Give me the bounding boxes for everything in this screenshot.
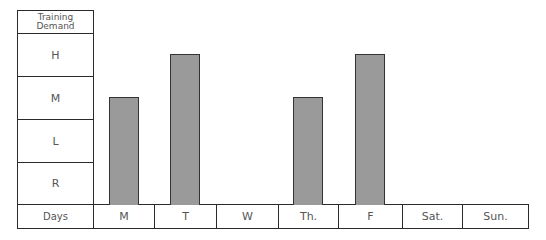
- y-level-label: R: [52, 177, 60, 190]
- day-label: F: [367, 210, 373, 223]
- day-label: M: [119, 210, 129, 223]
- day-cell-fri: F: [338, 204, 403, 229]
- bar-th: [293, 97, 323, 205]
- day-cell-sat: Sat.: [402, 204, 463, 229]
- day-cell-sun: Sun.: [462, 204, 529, 229]
- x-axis-title: Days: [43, 211, 68, 222]
- y-level-r: R: [17, 162, 94, 205]
- y-level-label: H: [51, 49, 59, 62]
- y-level-m: M: [17, 76, 94, 120]
- y-level-h: H: [17, 33, 94, 77]
- day-cell-wed: W: [216, 204, 279, 229]
- day-label: T: [182, 210, 189, 223]
- bar-t: [170, 54, 200, 205]
- y-axis-title: Training Demand: [32, 13, 80, 31]
- bar-f: [355, 54, 385, 205]
- day-cell-thu: Th.: [278, 204, 339, 229]
- y-axis-header: Training Demand: [17, 10, 94, 34]
- y-level-l: L: [17, 119, 94, 163]
- day-cell-tue: T: [154, 204, 217, 229]
- y-level-label: M: [51, 92, 61, 105]
- day-label: Sat.: [422, 210, 444, 223]
- x-axis-title-cell: Days: [17, 204, 94, 229]
- bar-m: [109, 97, 139, 205]
- day-label: Sun.: [483, 210, 507, 223]
- day-cell-mon: M: [93, 204, 155, 229]
- y-level-label: L: [52, 135, 58, 148]
- day-label: W: [242, 210, 253, 223]
- day-label: Th.: [300, 210, 317, 223]
